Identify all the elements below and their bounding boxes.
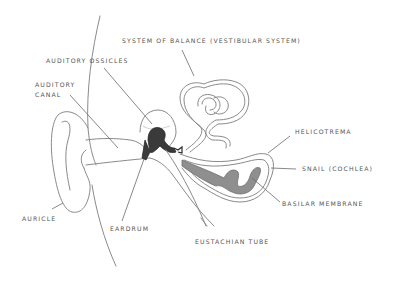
vestibular-system-shape xyxy=(180,80,249,152)
label-auditory-canal-line1: AUDITORY xyxy=(35,81,75,89)
label-helicotrema: HELICOTREMA xyxy=(295,128,352,136)
leader-canal xyxy=(70,95,118,148)
label-vestibular-system: SYSTEM OF BALANCE (VESTIBULAR SYSTEM) xyxy=(122,37,301,45)
leader-auricle xyxy=(52,203,63,209)
leader-vestibular xyxy=(182,50,194,76)
cochlea-spiral xyxy=(182,160,261,194)
label-auditory-ossicles: AUDITORY OSSICLES xyxy=(46,57,129,65)
auditory-canal-lower xyxy=(86,158,172,174)
label-basilar-membrane: BASILAR MEMBRANE xyxy=(282,200,364,208)
leader-eardrum xyxy=(122,159,144,221)
auricle-shape xyxy=(51,112,90,213)
ear-anatomy-diagram: SYSTEM OF BALANCE (VESTIBULAR SYSTEM) AU… xyxy=(0,0,397,282)
label-auricle: AURICLE xyxy=(22,215,56,223)
eustachian-tube-inner xyxy=(201,218,207,226)
head-contour xyxy=(88,16,100,165)
leader-cochlea xyxy=(271,168,296,169)
label-eardrum: EARDRUM xyxy=(110,225,149,233)
leader-helicotrema xyxy=(268,136,290,153)
auditory-canal-upper xyxy=(86,139,146,151)
label-auditory-canal-line2: CANAL xyxy=(35,91,61,99)
label-eustachian-tube: EUSTACHIAN TUBE xyxy=(195,238,269,246)
ossicles-shape xyxy=(148,128,176,153)
leader-ossicles xyxy=(104,68,152,124)
label-cochlea: SNAIL (COCHLEA) xyxy=(302,165,373,173)
